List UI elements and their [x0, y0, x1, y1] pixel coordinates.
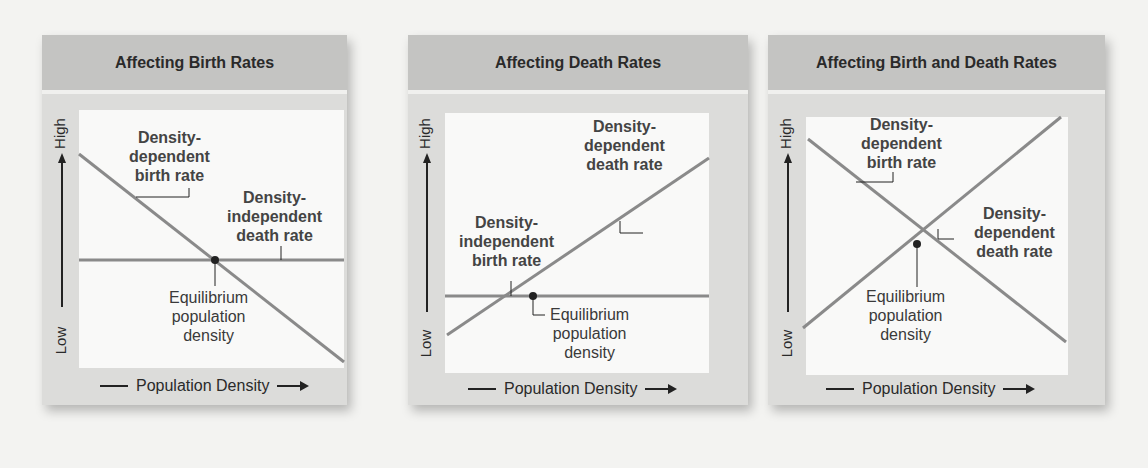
label-dd-death-rate: Density- dependent death rate — [974, 204, 1055, 261]
y-axis-high: High — [777, 118, 794, 149]
label-dd-birth-rate: Density- dependent birth rate — [129, 128, 210, 185]
equilibrium-point — [913, 240, 921, 248]
y-axis-high: High — [416, 118, 433, 149]
arrow-right-icon — [645, 388, 675, 390]
x-axis: Population Density — [468, 380, 675, 398]
panel-title: Affecting Birth and Death Rates — [768, 35, 1105, 94]
y-axis-low: Low — [417, 330, 434, 358]
y-axis: High Low — [52, 117, 72, 367]
panel-birth-rates: Affecting Birth Rates Density- dependent… — [42, 35, 347, 405]
y-axis-high: High — [51, 118, 68, 149]
label-dd-birth-rate: Density- dependent birth rate — [861, 115, 942, 172]
label-equilibrium: Equilibrium population density — [169, 288, 248, 345]
y-axis-low: Low — [778, 330, 795, 358]
panel-title: Affecting Birth Rates — [42, 35, 347, 94]
panel-birth-and-death-rates: Affecting Birth and Death Rates Density-… — [768, 35, 1105, 405]
x-axis-label: Population Density — [504, 380, 637, 398]
equilibrium-point — [529, 292, 537, 300]
y-axis: High Low — [778, 117, 798, 367]
x-axis-dash — [468, 388, 496, 390]
x-axis: Population Density — [826, 380, 1033, 398]
x-axis-dash — [100, 385, 128, 387]
label-di-death-rate: Density- independent death rate — [227, 188, 322, 245]
y-axis: High Low — [417, 117, 437, 367]
x-axis: Population Density — [100, 377, 307, 395]
arrow-right-icon — [277, 385, 307, 387]
x-axis-label: Population Density — [862, 380, 995, 398]
arrow-right-icon — [1003, 388, 1033, 390]
panel-death-rates: Affecting Death Rates Density- dependent… — [408, 35, 748, 405]
label-di-birth-rate: Density- independent birth rate — [459, 213, 554, 270]
label-equilibrium: Equilibrium population density — [866, 287, 945, 344]
plot-area: Density- dependent birth rate Density- i… — [79, 110, 344, 368]
plot-area: Density- dependent death rate Density- i… — [445, 113, 709, 373]
label-dd-death-rate: Density- dependent death rate — [584, 117, 665, 174]
plot-area: Density- dependent birth rate Density- d… — [806, 117, 1068, 375]
x-axis-dash — [826, 388, 854, 390]
equilibrium-point — [211, 256, 219, 264]
panel-title: Affecting Death Rates — [408, 35, 748, 94]
x-axis-label: Population Density — [136, 377, 269, 395]
label-equilibrium: Equilibrium population density — [550, 305, 629, 362]
y-axis-low: Low — [52, 327, 69, 355]
